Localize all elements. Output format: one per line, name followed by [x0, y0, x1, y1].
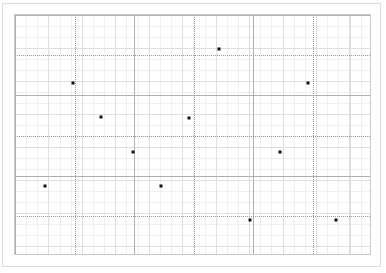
data-point — [188, 117, 191, 120]
gridline-vertical — [75, 15, 76, 254]
gridline-horizontal — [15, 216, 370, 217]
data-point — [307, 82, 310, 85]
data-point — [43, 184, 46, 187]
gridline-vertical — [194, 15, 195, 254]
data-point — [100, 116, 103, 119]
gridline-vertical — [15, 15, 16, 254]
data-point — [159, 184, 162, 187]
grid-mid-lines — [15, 15, 370, 254]
gridline-vertical — [134, 15, 135, 254]
gridline-vertical — [313, 15, 314, 254]
gridline-horizontal — [15, 95, 370, 96]
gridline-vertical — [253, 15, 254, 254]
gridline-horizontal — [15, 136, 370, 137]
gridline-horizontal — [15, 176, 370, 177]
data-point — [335, 218, 338, 221]
data-point — [217, 48, 220, 51]
data-point — [278, 150, 281, 153]
gridline-horizontal — [15, 55, 370, 56]
gridline-horizontal — [15, 15, 370, 16]
scatter-plot-figure — [0, 0, 386, 273]
data-point — [249, 218, 252, 221]
grid-minor-lines — [15, 15, 370, 254]
data-point — [72, 82, 75, 85]
data-point — [131, 150, 134, 153]
plot-area — [14, 14, 371, 255]
